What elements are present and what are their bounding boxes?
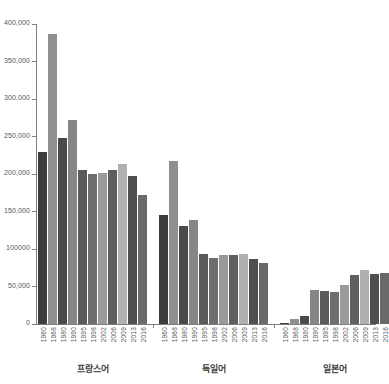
- bar[interactable]: [330, 292, 339, 324]
- x-tick-label-text: 2002: [99, 327, 106, 342]
- x-axis-labels: 1960196819801990199519982002200620092013…: [38, 326, 147, 360]
- x-tick-label: 1980: [300, 326, 309, 360]
- x-tick-label-text: 2013: [371, 327, 378, 342]
- bar-group-label: 독일어: [159, 362, 268, 375]
- x-tick-label-text: 1995: [321, 327, 328, 342]
- x-tick-label-text: 1960: [281, 327, 288, 342]
- x-tick-label: 1960: [159, 326, 168, 360]
- bar[interactable]: [118, 164, 127, 325]
- x-tick-label-text: 1968: [291, 327, 298, 342]
- bar[interactable]: [179, 226, 188, 324]
- x-tick-label: 2006: [229, 326, 238, 360]
- x-tick-label: 1968: [48, 326, 57, 360]
- y-tick-mark: [32, 211, 36, 212]
- bar[interactable]: [290, 319, 299, 324]
- bar[interactable]: [209, 258, 218, 324]
- bar[interactable]: [78, 170, 87, 324]
- x-tick-label: 2009: [360, 326, 369, 360]
- bar[interactable]: [229, 255, 238, 324]
- y-tick-label: 300,000: [4, 93, 30, 103]
- x-tick-label: 2002: [98, 326, 107, 360]
- bar[interactable]: [159, 215, 168, 325]
- x-tick-label-text: 1990: [311, 327, 318, 342]
- y-tick-mark: [32, 24, 36, 25]
- x-axis-labels: 1960196819801990199519982002200620092013…: [159, 326, 268, 360]
- x-tick-label-text: 1990: [69, 327, 76, 342]
- bar[interactable]: [320, 291, 329, 324]
- bar[interactable]: [138, 195, 147, 324]
- x-tick-label: 2013: [249, 326, 258, 360]
- x-axis-line: [36, 324, 376, 325]
- x-tick-label: 2002: [219, 326, 228, 360]
- y-tick-mark: [32, 286, 36, 287]
- y-tick-label: 100000: [6, 243, 30, 253]
- group-separator-tick: [153, 324, 154, 328]
- x-tick-label: 2013: [128, 326, 137, 360]
- x-tick-label: 1998: [330, 326, 339, 360]
- x-tick-label: 2002: [340, 326, 349, 360]
- x-tick-label-text: 2006: [351, 327, 358, 342]
- bar[interactable]: [239, 254, 248, 325]
- bar-group-label: 프랑스어: [38, 362, 147, 375]
- x-tick-label-text: 2009: [240, 327, 247, 342]
- bar-group: [159, 24, 268, 324]
- bar[interactable]: [108, 170, 117, 324]
- x-tick-label: 1980: [179, 326, 188, 360]
- y-axis-line: [36, 24, 37, 324]
- x-tick-label: 1998: [88, 326, 97, 360]
- x-tick-label: 2016: [138, 326, 147, 360]
- bar[interactable]: [249, 259, 258, 324]
- y-tick-mark: [32, 174, 36, 175]
- y-tick-mark: [32, 136, 36, 137]
- bar[interactable]: [58, 138, 67, 324]
- x-tick-label-text: 1980: [301, 327, 308, 342]
- x-tick-label-text: 1980: [59, 327, 66, 342]
- x-tick-label-text: 1998: [331, 327, 338, 342]
- x-tick-label: 1990: [189, 326, 198, 360]
- x-tick-label: 1995: [320, 326, 329, 360]
- x-tick-label-text: 1998: [210, 327, 217, 342]
- x-tick-label-text: 1980: [180, 327, 187, 342]
- bar[interactable]: [199, 254, 208, 324]
- bar[interactable]: [98, 173, 107, 325]
- bar[interactable]: [189, 220, 198, 324]
- bar[interactable]: [38, 152, 47, 325]
- bar[interactable]: [340, 285, 349, 324]
- bar-group-label: 일본어: [280, 362, 389, 375]
- x-tick-label-text: 2016: [260, 327, 267, 342]
- bar[interactable]: [88, 174, 97, 324]
- bar[interactable]: [219, 255, 228, 324]
- x-tick-label-text: 1960: [160, 327, 167, 342]
- x-tick-label-text: 1995: [200, 327, 207, 342]
- x-tick-label: 2016: [380, 326, 389, 360]
- bar[interactable]: [380, 273, 389, 324]
- bar[interactable]: [48, 34, 57, 324]
- bar[interactable]: [280, 323, 289, 324]
- bar[interactable]: [259, 263, 268, 324]
- bar[interactable]: [169, 161, 178, 324]
- x-tick-label: 1960: [280, 326, 289, 360]
- x-tick-label-text: 2009: [119, 327, 126, 342]
- y-tick-label: 250,000: [4, 131, 30, 141]
- bar[interactable]: [68, 120, 77, 324]
- bar[interactable]: [300, 316, 309, 324]
- x-tick-label: 1990: [68, 326, 77, 360]
- x-tick-label-text: 2013: [129, 327, 136, 342]
- x-tick-label: 1960: [38, 326, 47, 360]
- x-tick-label: 1990: [310, 326, 319, 360]
- bar[interactable]: [128, 176, 137, 325]
- bar[interactable]: [370, 274, 379, 324]
- y-tick-label: 50,000: [8, 281, 30, 291]
- bar[interactable]: [360, 270, 369, 324]
- bar[interactable]: [350, 275, 359, 325]
- x-tick-label: 2009: [118, 326, 127, 360]
- group-separator-tick: [274, 324, 275, 328]
- bar[interactable]: [310, 290, 319, 324]
- y-tick-mark: [32, 61, 36, 62]
- x-tick-label-text: 1998: [89, 327, 96, 342]
- x-tick-label-text: 1995: [79, 327, 86, 342]
- x-tick-label-text: 1968: [49, 327, 56, 342]
- x-tick-label: 2009: [239, 326, 248, 360]
- x-tick-label: 2013: [370, 326, 379, 360]
